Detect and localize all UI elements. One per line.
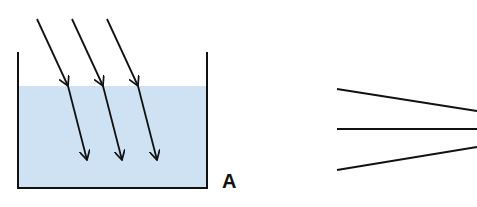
figure-canvas — [0, 0, 477, 207]
water — [19, 86, 206, 187]
converging-line-bottom — [337, 147, 477, 170]
diagram-label-a: A — [222, 170, 236, 193]
converging-line-top — [337, 89, 477, 111]
left-diagram — [18, 19, 207, 188]
right-diagram — [337, 89, 477, 170]
